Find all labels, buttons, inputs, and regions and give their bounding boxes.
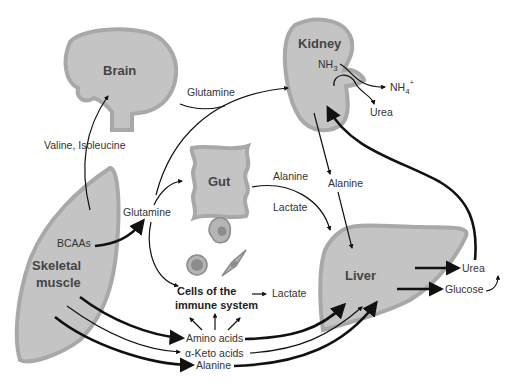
brain-glutamine-connector <box>180 104 225 109</box>
interorgan-amino-acid-exchange-diagram: Brain Kidney Gut Skeletal muscle Liver C… <box>0 0 521 390</box>
label-alanine-bottom: Alanine <box>196 359 231 371</box>
brain-label: Brain <box>103 63 136 78</box>
label-kidney-urea: Urea <box>370 106 393 118</box>
label-nh4: NH4+ <box>390 79 414 96</box>
label-gut-alanine: Alanine <box>273 170 308 182</box>
label-liver-urea: Urea <box>462 262 485 274</box>
label-alpha-keto-acids: α-Keto acids <box>185 347 244 359</box>
label-valine-isoleucine: Valine, Isoleucine <box>44 139 126 151</box>
liver-label: Liver <box>345 268 376 283</box>
label-gut-lactate: Lactate <box>273 201 308 213</box>
label-amino-acids: Amino acids <box>186 332 243 344</box>
label-kidney-alanine: Alanine <box>328 177 363 189</box>
brain-organ <box>66 29 177 130</box>
arrow-glucose-recycle <box>486 276 498 291</box>
immune-label-line2: immune system <box>175 299 258 311</box>
immune-cells-illustration <box>187 218 246 276</box>
arrow-glutamine-to-gut <box>154 181 182 205</box>
immune-label-line1: Cells of the <box>177 285 236 297</box>
arrow-aa-to-immune-left <box>190 318 202 330</box>
label-bcaas: BCAAs <box>57 237 91 249</box>
arrow-aa-to-immune-right <box>228 318 240 330</box>
label-glutamine-to-kidney: Glutamine <box>187 86 235 98</box>
label-glutamine-center: Glutamine <box>123 206 171 218</box>
arrow-glutamine-to-immune <box>149 222 178 286</box>
skeletal-muscle-label-line2: muscle <box>36 275 81 290</box>
gut-label: Gut <box>208 174 231 189</box>
skeletal-muscle-label-line1: Skeletal <box>32 258 81 273</box>
liver-organ <box>320 225 466 330</box>
label-immune-lactate: Lactate <box>272 287 307 299</box>
label-liver-glucose: Glucose <box>445 283 484 295</box>
kidney-label: Kidney <box>298 36 342 51</box>
